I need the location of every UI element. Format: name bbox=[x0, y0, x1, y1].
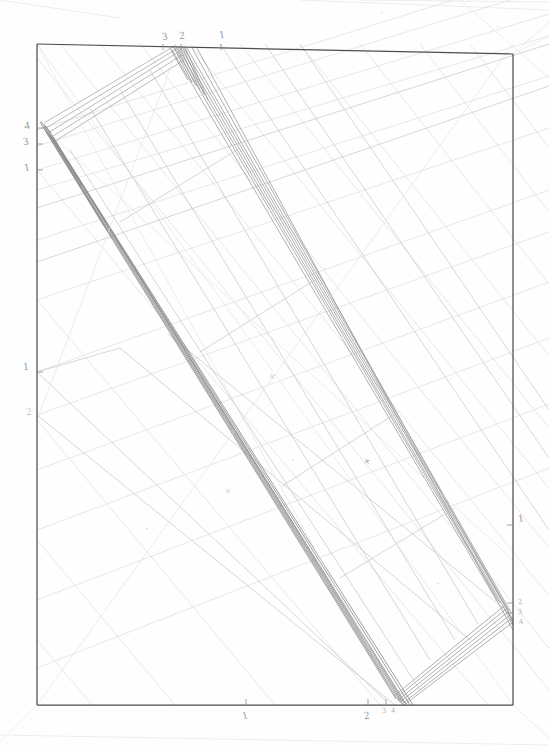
sketch-page: 3 2 1 4 3 1 1 2 1 2 3 4 1 2 3 4 × × × · … bbox=[0, 0, 549, 753]
tick-label-left-3: 3 bbox=[22, 135, 29, 148]
tick-label-right-2: 2 bbox=[518, 597, 523, 606]
prism-long-edges bbox=[43, 127, 413, 705]
tick-label-left-mid-1: 1 bbox=[22, 360, 29, 373]
dot-mark-center: · bbox=[291, 453, 295, 465]
dot-mark-lower-left: · bbox=[145, 522, 149, 534]
tick-label-left-mid-2: 2 bbox=[26, 405, 33, 417]
tick-label-right-3: 3 bbox=[518, 607, 523, 616]
tick-label-top-2: 2 bbox=[178, 29, 185, 42]
prism-far-end-edges bbox=[394, 606, 513, 705]
dot-mark-top-right: · bbox=[496, 20, 500, 32]
dot-mark-top-center: · bbox=[380, 6, 384, 18]
tick-label-right-4: 4 bbox=[519, 617, 524, 626]
dot-mark-upper-center: · bbox=[323, 262, 327, 274]
tick-label-top-3: 3 bbox=[161, 30, 168, 43]
prism-top-face bbox=[44, 45, 184, 143]
prism-long-edges-secondary bbox=[172, 48, 513, 630]
dot-mark-lower-right: · bbox=[436, 577, 440, 589]
